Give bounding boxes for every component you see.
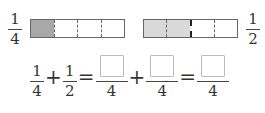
denominator: 4	[107, 84, 117, 99]
fraction-one-quarter-label: 1 4	[8, 12, 22, 47]
numerator: 1	[248, 12, 258, 27]
denominator: 2	[248, 32, 258, 47]
blank-fraction-2: 4	[146, 55, 178, 99]
fraction-one-half-label: 1 2	[246, 12, 260, 47]
denominator: 2	[65, 84, 75, 99]
strip-cell	[54, 20, 78, 37]
numerator: 1	[32, 64, 42, 79]
strip-cell	[101, 20, 125, 37]
strip-cell	[214, 20, 237, 37]
equation-term-one-half: 1 2	[63, 64, 77, 99]
strip-cell	[77, 20, 101, 37]
strip-cell-shaded	[31, 20, 54, 37]
equation-term-one-quarter: 1 4	[30, 64, 44, 99]
strip-one-half	[143, 19, 238, 38]
answer-box-3[interactable]	[201, 55, 225, 77]
denominator: 4	[208, 84, 218, 99]
numerator: 1	[65, 64, 75, 79]
strip-cell-shaded	[166, 20, 189, 37]
strip-cell	[190, 20, 214, 37]
strip-cell-shaded	[144, 20, 166, 37]
blank-fraction-1: 4	[96, 55, 128, 99]
answer-box-1[interactable]	[100, 55, 124, 77]
strip-one-quarter	[30, 19, 125, 38]
denominator: 4	[10, 32, 20, 47]
denominator: 4	[32, 84, 42, 99]
denominator: 4	[158, 84, 168, 99]
plus-sign: +	[45, 67, 62, 87]
equals-sign: =	[179, 67, 196, 87]
plus-sign: +	[129, 67, 146, 87]
numerator: 1	[10, 12, 20, 27]
answer-box-2[interactable]	[150, 55, 174, 77]
equation: 1 4 + 1 2 = 4 + 4 = 4	[30, 55, 229, 99]
result-fraction: 4	[197, 55, 229, 99]
equals-sign: =	[78, 67, 95, 87]
